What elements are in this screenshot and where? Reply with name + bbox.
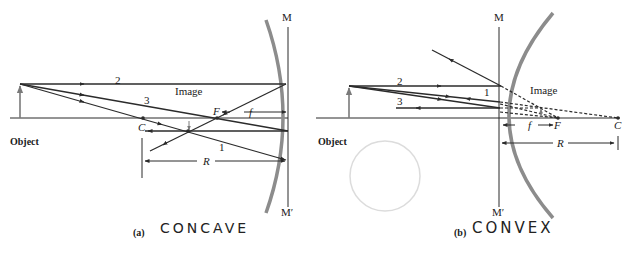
ray-2-label-a: 2 bbox=[115, 75, 121, 86]
mirror-top-label-b: M bbox=[494, 12, 504, 23]
focal-length-label-b: f bbox=[528, 120, 531, 131]
ray-1 bbox=[20, 84, 286, 160]
ray-1-label-b: 1 bbox=[484, 87, 490, 98]
faint-circle-mark bbox=[350, 141, 420, 211]
center-label-b: C bbox=[614, 120, 621, 131]
concave-mirror bbox=[266, 20, 283, 213]
mirror-bottom-label-b: M′ bbox=[492, 207, 504, 218]
mirror-top-label-a: M bbox=[282, 12, 292, 23]
radius-label-b: R bbox=[557, 138, 564, 149]
diagram-canvas bbox=[0, 0, 628, 254]
focal-length-label-a: f bbox=[249, 107, 252, 118]
ray-2-label-b: 2 bbox=[397, 76, 403, 87]
object-label-a: Object bbox=[10, 137, 39, 147]
ray-3-label-b: 3 bbox=[397, 96, 403, 107]
ray-1 bbox=[349, 86, 500, 102]
center-point bbox=[141, 116, 145, 120]
radius-label-a: R bbox=[203, 156, 210, 167]
ray-2-reflected bbox=[432, 50, 501, 86]
handwritten-label-convex: CONVEX bbox=[472, 221, 554, 236]
ray-1-label-a: 1 bbox=[219, 142, 225, 153]
mirror-ray-diagrams: M M′ 2 Image 3 F f C Object 1 R (a) CONC… bbox=[0, 0, 628, 254]
ray-3-label-a: 3 bbox=[144, 95, 150, 106]
handwritten-label-concave: CONCAVE bbox=[160, 221, 249, 235]
image-label-b: Image bbox=[530, 85, 557, 96]
mirror-bottom-label-a: M′ bbox=[281, 207, 293, 218]
ray-3-incident bbox=[349, 86, 500, 108]
image-label-a: Image bbox=[175, 86, 202, 97]
focus-label-b: F bbox=[554, 120, 561, 131]
panel-b-convex bbox=[316, 13, 620, 218]
object-label-b: Object bbox=[318, 137, 347, 147]
caption-tag-b: (b) bbox=[454, 228, 466, 238]
ray-1-virtual bbox=[500, 102, 618, 118]
ray-3-incident bbox=[20, 84, 288, 131]
focus-label-a: F bbox=[213, 106, 220, 117]
panel-a-concave bbox=[10, 20, 288, 213]
center-label-a: C bbox=[138, 122, 145, 133]
caption-tag-a: (a) bbox=[133, 228, 145, 238]
